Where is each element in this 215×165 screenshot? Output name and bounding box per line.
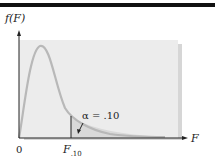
y-axis-arrow-icon (17, 30, 21, 36)
x-axis-label: F (190, 132, 199, 145)
y-axis-label: f(F) (4, 12, 25, 25)
background-panel (19, 40, 178, 138)
critical-value-label: F.10 (62, 143, 82, 158)
alpha-annotation: α = .10 (82, 110, 119, 121)
origin-label: 0 (16, 144, 22, 155)
f-distribution-diagram: f(F) F 0 F.10 α = .10 (0, 0, 215, 165)
x-axis-arrow-icon (182, 136, 188, 140)
